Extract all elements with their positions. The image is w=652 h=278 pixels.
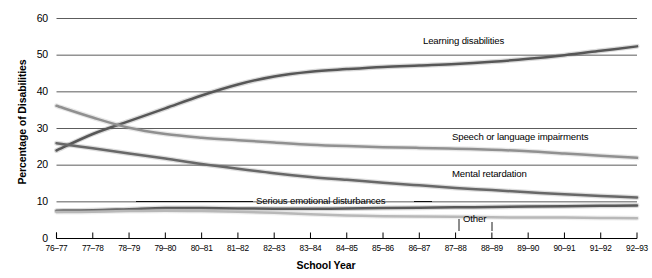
annotation-learning-disabilities: Learning disabilities bbox=[423, 35, 504, 46]
annotation-other: Other bbox=[463, 213, 486, 224]
x-tick-label-85-86: 85–86 bbox=[372, 243, 394, 253]
y-tick-label-10: 10 bbox=[22, 195, 48, 207]
x-tick-label-82-83: 82–83 bbox=[263, 243, 285, 253]
x-tick-label-83-84: 83–84 bbox=[300, 243, 322, 253]
x-tick-label-77-78: 77–78 bbox=[82, 243, 104, 253]
y-tick-label-60: 60 bbox=[22, 12, 48, 24]
x-tick-label-80-81: 80–81 bbox=[191, 243, 213, 253]
x-tick-label-91-92: 91–92 bbox=[590, 243, 612, 253]
x-tick-label-86-87: 86–87 bbox=[408, 243, 430, 253]
x-tick-label-84-85: 84–85 bbox=[336, 243, 358, 253]
y-tick-label-40: 40 bbox=[22, 85, 48, 97]
y-tick-label-0: 0 bbox=[22, 232, 48, 244]
x-tick-label-76-77: 76–77 bbox=[46, 243, 68, 253]
series-5 bbox=[57, 211, 638, 219]
annotation-serious-emotional-disturbances: Serious emotional disturbances bbox=[256, 195, 385, 206]
x-tick-label-81-82: 81–82 bbox=[227, 243, 249, 253]
y-tick-label-30: 30 bbox=[22, 122, 48, 134]
line-chart-figure: Percentage of Disabilities School Year 6… bbox=[0, 0, 652, 278]
annotation-mental-retardation: Mental retardation bbox=[452, 168, 527, 179]
x-tick-label-92-93: 92–93 bbox=[626, 243, 648, 253]
x-tick-label-87-88: 87–88 bbox=[445, 243, 467, 253]
x-tick-label-78-79: 78–79 bbox=[118, 243, 140, 253]
y-tick-label-50: 50 bbox=[22, 48, 48, 60]
x-tick-label-89-90: 89–90 bbox=[517, 243, 539, 253]
x-tick-label-90-91: 90–91 bbox=[553, 243, 575, 253]
y-tick-label-20: 20 bbox=[22, 158, 48, 170]
x-tick-label-88-89: 88–89 bbox=[481, 243, 503, 253]
annotation-speech-or-language-impairments: Speech or language impairments bbox=[452, 131, 588, 142]
x-tick-label-79-80: 79–80 bbox=[154, 243, 176, 253]
